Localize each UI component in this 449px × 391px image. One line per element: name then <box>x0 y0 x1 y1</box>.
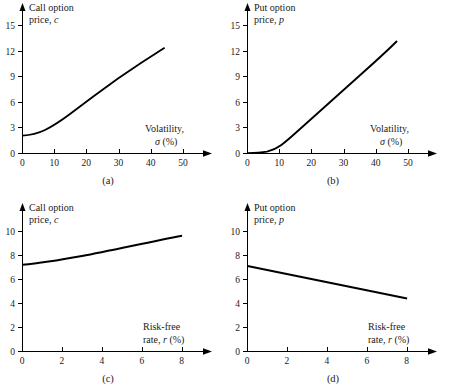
y-tick-label: 0 <box>10 149 15 159</box>
x-tick-label: 2 <box>285 356 290 366</box>
y-tick-marks <box>243 231 248 352</box>
x-tick-label: 20 <box>307 158 317 168</box>
y-tick-label: 8 <box>10 251 15 261</box>
y-axis-title-line2: price, p <box>254 214 284 225</box>
y-tick-label: 9 <box>10 72 15 82</box>
x-tick-label: 20 <box>82 158 92 168</box>
y-axis-title-line2: price, c <box>29 14 59 25</box>
y-axis-title-prefix: price, <box>29 214 54 225</box>
y-tick-label: 6 <box>235 275 240 285</box>
x-tick-marks <box>23 149 184 154</box>
y-axis-arrow-icon <box>20 203 26 211</box>
data-curve <box>23 236 183 265</box>
x-axis-arrow-icon <box>203 150 212 157</box>
y-axis-title-line1: Put option <box>254 202 295 213</box>
chart-panel-a: 0 3 6 9 12 15 0 10 20 30 40 50 Call opti… <box>0 0 224 195</box>
y-tick-label: 6 <box>235 98 240 108</box>
x-tick-label: 50 <box>178 158 188 168</box>
x-axis-title-suffix: (%) <box>167 334 185 346</box>
y-tick-label: 15 <box>6 21 16 31</box>
chart-panel-b: 0 3 6 9 12 15 0 10 20 30 40 50 Put optio… <box>225 0 449 195</box>
x-axis-title-line1: Volatility, <box>370 123 409 134</box>
x-tick-label: 4 <box>100 356 105 366</box>
y-tick-label: 0 <box>10 347 15 357</box>
x-axis-title-suffix: (%) <box>392 334 410 346</box>
y-tick-label: 10 <box>6 227 16 237</box>
data-curve <box>23 48 165 136</box>
x-tick-label: 6 <box>139 356 144 366</box>
chart-panel-d: 0 2 4 6 8 10 0 2 4 6 8 Put option price,… <box>225 196 449 391</box>
y-axis-arrow-icon <box>245 3 251 11</box>
y-tick-marks <box>243 26 248 154</box>
figure-panel-grid: 0 3 6 9 12 15 0 10 20 30 40 50 Call opti… <box>0 0 449 391</box>
y-axis-title-variable: c <box>54 14 59 25</box>
y-axis-title-line1: Put option <box>254 2 295 13</box>
y-tick-label: 2 <box>235 323 240 333</box>
x-tick-marks <box>248 347 408 352</box>
y-axis-title-prefix: price, <box>29 14 54 25</box>
x-tick-label: 0 <box>245 158 250 168</box>
data-curve <box>248 266 408 299</box>
x-tick-label: 8 <box>404 356 409 366</box>
x-axis-title-line2: σ (%) <box>155 136 177 148</box>
x-tick-label: 40 <box>146 158 156 168</box>
y-axis-title-variable: p <box>278 214 284 225</box>
y-tick-label: 10 <box>231 227 241 237</box>
data-curve <box>248 41 398 153</box>
x-axis-title-line1: Risk-free <box>368 321 406 332</box>
x-tick-marks <box>23 347 183 352</box>
x-axis-title-prefix: rate, <box>368 334 388 345</box>
y-tick-label: 6 <box>10 98 15 108</box>
chart-svg-d: 0 2 4 6 8 10 0 2 4 6 8 Put option price,… <box>225 196 449 391</box>
y-axis-title-variable: p <box>278 14 284 25</box>
x-tick-label: 2 <box>60 356 65 366</box>
x-axis-title-suffix: (%) <box>385 136 403 148</box>
y-tick-label: 2 <box>10 323 15 333</box>
y-tick-label: 4 <box>235 299 240 309</box>
y-tick-label: 15 <box>231 21 241 31</box>
x-axis-title-line2: σ (%) <box>380 136 402 148</box>
y-axis-title-prefix: price, <box>254 14 279 25</box>
y-axis-title-prefix: price, <box>254 214 279 225</box>
x-tick-label: 0 <box>20 158 25 168</box>
y-axis-title-line1: Call option <box>29 2 74 13</box>
y-tick-label: 8 <box>235 251 240 261</box>
x-axis-arrow-icon <box>428 150 437 157</box>
x-tick-label: 10 <box>49 158 59 168</box>
x-tick-label: 4 <box>325 356 330 366</box>
y-tick-label: 3 <box>10 123 15 133</box>
y-tick-label: 12 <box>6 47 16 57</box>
y-axis-title-line1: Call option <box>29 202 74 213</box>
chart-svg-a: 0 3 6 9 12 15 0 10 20 30 40 50 Call opti… <box>0 0 224 195</box>
y-tick-label: 6 <box>10 275 15 285</box>
x-tick-label: 8 <box>179 356 184 366</box>
y-axis-title-line2: price, p <box>254 14 284 25</box>
x-tick-label: 0 <box>20 356 25 366</box>
x-tick-label: 30 <box>339 158 349 168</box>
x-axis-arrow-icon <box>428 348 437 355</box>
chart-panel-c: 0 2 4 6 8 10 0 2 4 6 8 Call option price… <box>0 196 224 391</box>
chart-svg-c: 0 2 4 6 8 10 0 2 4 6 8 Call option price… <box>0 196 224 391</box>
y-tick-marks <box>18 231 23 352</box>
y-tick-label: 9 <box>235 72 240 82</box>
x-tick-label: 40 <box>371 158 381 168</box>
x-axis-title-suffix: (%) <box>160 136 178 148</box>
x-axis-title-prefix: rate, <box>143 334 163 345</box>
x-axis-title-line2: rate, r (%) <box>368 334 409 346</box>
x-tick-label: 10 <box>274 158 284 168</box>
y-axis-arrow-icon <box>245 203 251 211</box>
y-tick-label: 0 <box>235 347 240 357</box>
y-tick-label: 12 <box>231 47 241 57</box>
y-tick-label: 0 <box>235 149 240 159</box>
y-tick-label: 4 <box>10 299 15 309</box>
y-axis-arrow-icon <box>20 3 26 11</box>
x-tick-label: 0 <box>245 356 250 366</box>
x-axis-arrow-icon <box>203 348 212 355</box>
x-axis-title-line2: rate, r (%) <box>143 334 184 346</box>
x-tick-label: 50 <box>403 158 413 168</box>
y-tick-marks <box>18 26 23 154</box>
chart-svg-b: 0 3 6 9 12 15 0 10 20 30 40 50 Put optio… <box>225 0 449 195</box>
y-axis-title-variable: c <box>54 214 59 225</box>
x-axis-title-line1: Volatility, <box>145 123 184 134</box>
x-tick-label: 6 <box>364 356 369 366</box>
